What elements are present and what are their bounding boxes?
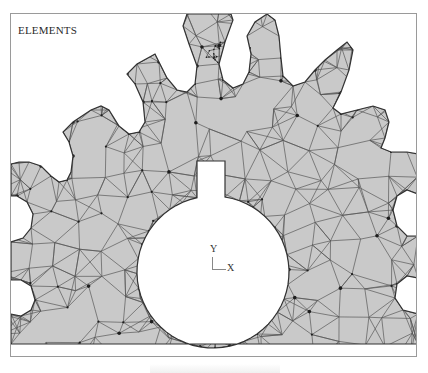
- figure-caption-clipped: [150, 364, 280, 373]
- axis-x-label: X: [227, 262, 234, 273]
- gear-mesh: [11, 14, 417, 357]
- axis-y-label: Y: [210, 243, 217, 254]
- plot-frame: ELEMENTS Y X: [10, 13, 417, 357]
- plot-label: ELEMENTS: [18, 24, 77, 36]
- axis-x-line: [212, 269, 226, 270]
- axis-y-line: [212, 257, 213, 269]
